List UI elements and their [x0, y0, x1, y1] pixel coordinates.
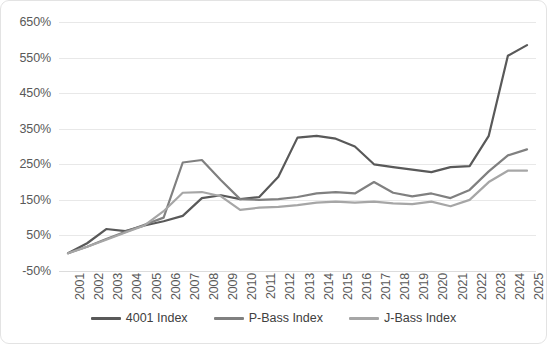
legend-color-swatch — [349, 317, 379, 320]
y-axis-tick-label: 150% — [19, 193, 51, 207]
x-axis-tick-label: 2001 — [73, 273, 87, 300]
y-axis-tick-label: 250% — [19, 157, 51, 171]
x-axis-tick-label: 2006 — [169, 273, 183, 300]
x-axis-tick-label: 2018 — [398, 273, 412, 300]
chart-legend: 4001 IndexP-Bass IndexJ-Bass Index — [1, 311, 546, 325]
y-axis-tick-label: 650% — [19, 15, 51, 29]
legend-label: 4001 Index — [126, 311, 188, 325]
series-line — [68, 45, 527, 253]
legend-label: J-Bass Index — [384, 311, 456, 325]
x-axis-tick-label: 2019 — [417, 273, 431, 300]
x-axis: 2001200220032004200520062007200820092010… — [59, 273, 536, 313]
y-axis-tick-label: 50% — [26, 228, 51, 242]
series-line — [68, 171, 527, 254]
y-axis-tick-label: -50% — [22, 264, 51, 278]
x-axis-tick-label: 2020 — [436, 273, 450, 300]
x-axis-tick-label: 2007 — [188, 273, 202, 300]
x-axis-tick-label: 2013 — [303, 273, 317, 300]
x-axis-tick-label: 2004 — [130, 273, 144, 300]
x-axis-tick-label: 2010 — [245, 273, 259, 300]
y-axis: 650%550%450%350%250%150%50%-50% — [1, 1, 59, 292]
y-axis-tick-label: 350% — [19, 122, 51, 136]
line-chart-card: 650%550%450%350%250%150%50%-50% 20012002… — [0, 0, 547, 344]
x-axis-tick-label: 2015 — [341, 273, 355, 300]
series-lines — [59, 22, 536, 271]
x-axis-tick-label: 2005 — [150, 273, 164, 300]
x-axis-tick-label: 2024 — [513, 273, 527, 300]
x-axis-tick-label: 2023 — [494, 273, 508, 300]
series-line — [68, 149, 527, 253]
legend-label: P-Bass Index — [249, 311, 323, 325]
y-axis-tick-label: 550% — [19, 51, 51, 65]
x-axis-tick-label: 2011 — [264, 273, 278, 299]
x-axis-tick-label: 2002 — [92, 273, 106, 300]
legend-entry[interactable]: P-Bass Index — [214, 311, 323, 325]
x-axis-tick-label: 2014 — [322, 273, 336, 300]
legend-color-swatch — [214, 317, 244, 320]
y-axis-tick-label: 450% — [19, 86, 51, 100]
x-axis-tick-label: 2022 — [475, 273, 489, 300]
x-axis-tick-label: 2016 — [360, 273, 374, 300]
x-axis-tick-label: 2017 — [379, 273, 393, 300]
x-axis-tick-label: 2009 — [226, 273, 240, 300]
legend-entry[interactable]: J-Bass Index — [349, 311, 456, 325]
x-axis-tick-label: 2012 — [283, 273, 297, 300]
x-axis-tick-label: 2021 — [456, 273, 470, 300]
plot-area — [59, 22, 536, 271]
legend-entry[interactable]: 4001 Index — [91, 311, 188, 325]
x-axis-tick-label: 2008 — [207, 273, 221, 300]
gridline — [59, 271, 536, 272]
x-axis-tick-label: 2025 — [532, 273, 546, 300]
legend-color-swatch — [91, 317, 121, 320]
x-axis-tick-label: 2003 — [111, 273, 125, 300]
